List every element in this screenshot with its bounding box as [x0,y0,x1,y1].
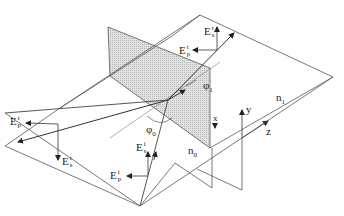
label-medium-n0: n0 [188,145,197,156]
label-incidence-angle: φ0 [146,124,156,135]
label-axis-y: y [246,104,252,115]
reflected-edge [5,108,60,146]
label-transmitted-s: Ets [204,26,217,37]
label-transmission-angle: φ1 [203,80,213,91]
label-axis-z: z [266,126,271,137]
plane-of-incidence [108,27,210,148]
interface-line-2 [172,15,200,36]
label-incident-p: Eip [110,170,123,181]
label-transmitted-p: Etp [179,45,192,56]
label-reflected-p: Erp [10,116,23,127]
optics-diagram [0,0,344,216]
label-incident-s: Eis [136,142,149,153]
lower-right-edge [197,169,242,190]
label-reflected-s: Ers [62,156,75,167]
label-medium-n1: n1 [276,92,285,103]
label-axis-x: x [213,114,218,123]
reflected-p-vector [26,123,58,124]
